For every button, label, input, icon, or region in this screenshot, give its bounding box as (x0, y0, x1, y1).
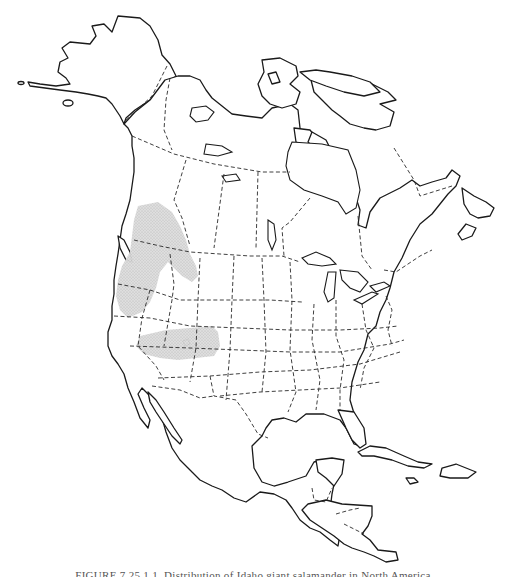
cuba (358, 446, 432, 468)
jamaica (406, 478, 418, 484)
mainland-landmass (108, 76, 460, 546)
figure-caption: FIGURE 7.25.1.1. Distribution of Idaho g… (0, 568, 509, 577)
aleutian-island (18, 82, 24, 85)
nova-scotia (458, 224, 476, 240)
north-america-map (0, 0, 509, 577)
arctic-island-victoria (258, 58, 300, 108)
lake-athabasca (222, 174, 240, 182)
kodiak-island (63, 100, 73, 106)
newfoundland (462, 188, 494, 218)
florida (338, 410, 366, 448)
hispaniola (440, 464, 476, 478)
border-us-col-10 (386, 296, 392, 346)
